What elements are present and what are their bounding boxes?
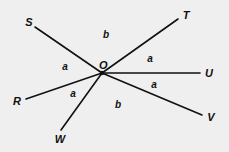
point-label-u: U (205, 67, 214, 79)
ray-os (35, 27, 102, 73)
rays-from-point-diagram: O STUVWR baabaa (0, 0, 229, 152)
center-point-o (100, 71, 104, 75)
point-label-t: T (183, 9, 191, 21)
rays-group (26, 19, 202, 130)
point-label-s: S (25, 16, 33, 28)
point-label-v: V (207, 111, 216, 123)
angle-label-tou: a (147, 53, 153, 64)
ray-labels-group: STUVWR (13, 9, 216, 145)
center-label-o: O (99, 59, 108, 71)
angle-label-uov: a (151, 79, 157, 90)
angle-label-vow: b (115, 99, 121, 110)
ray-ow (61, 73, 102, 130)
point-label-w: W (55, 133, 67, 145)
angle-label-ros: a (62, 61, 68, 72)
ray-or (26, 73, 102, 99)
angle-label-sot: b (103, 29, 109, 40)
point-label-r: R (13, 95, 21, 107)
angle-labels-group: baabaa (62, 29, 157, 110)
ray-ot (102, 19, 178, 73)
angle-label-wor: a (70, 88, 76, 99)
